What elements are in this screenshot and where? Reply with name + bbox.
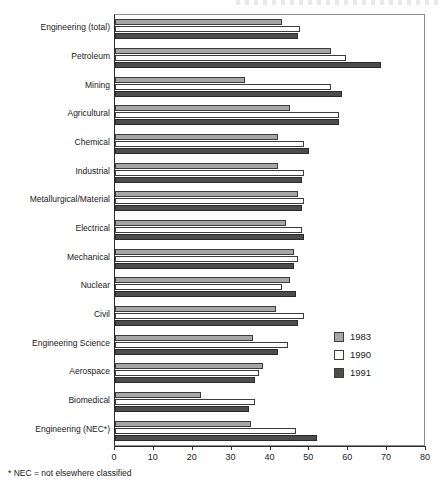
bar-1990 — [115, 26, 300, 32]
category-label: Industrial — [0, 167, 110, 176]
bar-1991 — [115, 119, 339, 125]
category-label: Engineering (total) — [0, 23, 110, 32]
bar-1983 — [115, 277, 290, 283]
bar-1990 — [115, 112, 339, 118]
bar-1983 — [115, 249, 294, 255]
bar-1990 — [115, 55, 346, 61]
category-label: Metallurgical/Material — [0, 195, 110, 204]
bar-1991 — [115, 263, 294, 269]
x-axis-tick-label: 30 — [219, 452, 243, 462]
bar-1990 — [115, 170, 304, 176]
bar-group — [115, 48, 425, 68]
bar-group — [115, 249, 425, 269]
bar-1983 — [115, 105, 290, 111]
category-label: Biomedical — [0, 396, 110, 405]
category-label: Civil — [0, 310, 110, 319]
x-axis-tick — [347, 446, 348, 450]
bar-1990 — [115, 256, 298, 262]
bar-group — [115, 220, 425, 240]
category-label: Electrical — [0, 224, 110, 233]
legend-item-1990: 1990 — [334, 348, 404, 366]
bar-1991 — [115, 205, 302, 211]
footnote: * NEC = not elsewhere classified — [8, 468, 132, 478]
category-label: Engineering (NEC*) — [0, 425, 110, 434]
bar-1990 — [115, 141, 304, 147]
bar-group — [115, 421, 425, 441]
bar-1983 — [115, 19, 282, 25]
bar-1983 — [115, 77, 245, 83]
category-label: Nuclear — [0, 281, 110, 290]
category-label: Engineering Science — [0, 339, 110, 348]
x-axis-tick — [308, 446, 309, 450]
bar-1991 — [115, 291, 296, 297]
x-axis-tick-label: 20 — [180, 452, 204, 462]
category-label: Petroleum — [0, 52, 110, 61]
bar-1990 — [115, 84, 331, 90]
bar-1983 — [115, 134, 278, 140]
legend-swatch-icon — [334, 332, 344, 342]
bar-1983 — [115, 306, 276, 312]
bar-group — [115, 277, 425, 297]
category-label: Chemical — [0, 138, 110, 147]
bar-group — [115, 392, 425, 412]
category-label: Agricultural — [0, 109, 110, 118]
bar-1983 — [115, 191, 298, 197]
bar-1991 — [115, 377, 255, 383]
bar-group — [115, 134, 425, 154]
category-label: Mechanical — [0, 253, 110, 262]
x-axis-tick-label: 70 — [374, 452, 398, 462]
x-axis-tick-label: 10 — [141, 452, 165, 462]
bar-1990 — [115, 284, 282, 290]
bar-1990 — [115, 428, 296, 434]
x-axis-tick — [386, 446, 387, 450]
bar-1983 — [115, 421, 251, 427]
legend-swatch-icon — [334, 350, 344, 360]
legend-swatch-icon — [334, 368, 344, 378]
x-axis-tick — [231, 446, 232, 450]
x-axis-tick — [153, 446, 154, 450]
bar-1983 — [115, 48, 331, 54]
x-axis-tick — [114, 446, 115, 450]
bar-group — [115, 191, 425, 211]
legend-label: 1983 — [350, 331, 371, 343]
bar-group — [115, 77, 425, 97]
bar-1991 — [115, 349, 278, 355]
x-axis-tick-label: 60 — [335, 452, 359, 462]
bar-1990 — [115, 227, 302, 233]
bar-1991 — [115, 320, 298, 326]
bar-group — [115, 306, 425, 326]
legend-label: 1990 — [350, 349, 371, 361]
category-label: Mining — [0, 81, 110, 90]
x-axis-tick-label: 40 — [258, 452, 282, 462]
legend-item-1983: 1983 — [334, 330, 404, 348]
x-axis-tick — [192, 446, 193, 450]
bar-1990 — [115, 313, 304, 319]
bar-1983 — [115, 392, 201, 398]
bar-group — [115, 163, 425, 183]
bar-1990 — [115, 399, 255, 405]
bar-group — [115, 19, 425, 39]
bar-1990 — [115, 370, 259, 376]
x-axis-tick — [425, 446, 426, 450]
bar-chart: Engineering (total)PetroleumMiningAgricu… — [0, 0, 447, 484]
bar-1990 — [115, 198, 304, 204]
x-axis-tick-label: 80 — [413, 452, 437, 462]
bar-1991 — [115, 33, 298, 39]
chart-legend: 198319901991 — [334, 330, 404, 384]
category-label: Aerospace — [0, 367, 110, 376]
x-axis-tick-label: 50 — [296, 452, 320, 462]
bar-1991 — [115, 435, 317, 441]
bar-1991 — [115, 148, 309, 154]
x-axis-tick — [270, 446, 271, 450]
legend-item-1991: 1991 — [334, 366, 404, 384]
category-axis-labels: Engineering (total)PetroleumMiningAgricu… — [0, 14, 110, 446]
bar-1983 — [115, 220, 286, 226]
bar-1991 — [115, 177, 302, 183]
legend-label: 1991 — [350, 367, 371, 379]
bar-1991 — [115, 234, 304, 240]
bar-1983 — [115, 335, 253, 341]
bar-1991 — [115, 91, 342, 97]
bar-1983 — [115, 363, 263, 369]
x-axis-tick-label: 0 — [102, 452, 126, 462]
bar-group — [115, 105, 425, 125]
